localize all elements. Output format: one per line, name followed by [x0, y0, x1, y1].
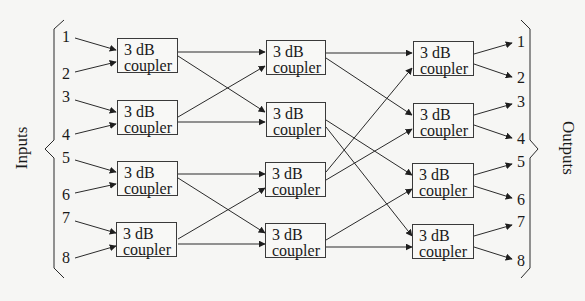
- coupler-label-db: 3 dB: [272, 166, 325, 182]
- coupler-stage3-4: 3 dB coupler: [412, 224, 474, 259]
- output-port-1: 1: [517, 34, 525, 50]
- coupler-stage2-4: 3 dB coupler: [265, 223, 326, 258]
- output-port-6: 6: [517, 192, 525, 208]
- coupler-label-db: 3 dB: [420, 45, 473, 61]
- inputs-label: Inputs: [12, 118, 32, 178]
- input-port-6: 6: [62, 187, 70, 203]
- output-port-7: 7: [517, 214, 525, 230]
- coupler-label-name: coupler: [273, 122, 325, 138]
- input-port-8: 8: [62, 250, 70, 266]
- coupler-network-diagram: Inputs Outputs 1 2 3 4 5 6 7 8 1 2 3 4 5…: [0, 0, 585, 301]
- coupler-label-name: coupler: [420, 123, 473, 139]
- coupler-stage1-3: 3 dB coupler: [117, 161, 178, 196]
- coupler-label-name: coupler: [273, 60, 325, 76]
- coupler-stage2-2: 3 dB coupler: [266, 102, 326, 137]
- coupler-stage1-1: 3 dB coupler: [117, 38, 178, 73]
- output-port-4: 4: [517, 131, 525, 147]
- coupler-label-db: 3 dB: [273, 106, 325, 122]
- coupler-label-name: coupler: [123, 242, 176, 258]
- coupler-label-name: coupler: [124, 120, 177, 136]
- coupler-label-name: coupler: [420, 61, 473, 77]
- input-port-2: 2: [62, 66, 70, 82]
- coupler-stage2-3: 3 dB coupler: [265, 162, 326, 197]
- output-port-8: 8: [517, 253, 525, 269]
- input-port-1: 1: [62, 29, 70, 45]
- coupler-label-db: 3 dB: [124, 165, 177, 181]
- coupler-label-db: 3 dB: [420, 107, 473, 123]
- coupler-label-name: coupler: [272, 182, 325, 198]
- coupler-label-db: 3 dB: [272, 227, 325, 243]
- input-port-7: 7: [62, 210, 70, 226]
- coupler-stage1-4: 3 dB coupler: [116, 222, 177, 257]
- coupler-label-db: 3 dB: [124, 104, 177, 120]
- coupler-label-db: 3 dB: [273, 44, 325, 60]
- coupler-stage3-3: 3 dB coupler: [412, 163, 474, 198]
- coupler-label-db: 3 dB: [124, 42, 177, 58]
- input-port-5: 5: [62, 150, 70, 166]
- output-port-2: 2: [517, 70, 525, 86]
- coupler-label-name: coupler: [272, 243, 325, 259]
- outputs-brace: [521, 20, 538, 278]
- coupler-label-name: coupler: [124, 58, 177, 74]
- coupler-label-db: 3 dB: [123, 226, 176, 242]
- coupler-label-name: coupler: [419, 183, 473, 199]
- outputs-label: Outputs: [558, 112, 578, 184]
- input-port-3: 3: [62, 89, 70, 105]
- output-port-3: 3: [517, 94, 525, 110]
- coupler-label-db: 3 dB: [419, 228, 473, 244]
- coupler-stage1-2: 3 dB coupler: [117, 100, 178, 135]
- input-port-4: 4: [62, 127, 70, 143]
- coupler-stage3-1: 3 dB coupler: [413, 41, 474, 76]
- coupler-label-db: 3 dB: [419, 167, 473, 183]
- coupler-label-name: coupler: [419, 244, 473, 260]
- output-port-5: 5: [517, 154, 525, 170]
- coupler-stage2-1: 3 dB coupler: [266, 40, 326, 75]
- coupler-label-name: coupler: [124, 181, 177, 197]
- coupler-stage3-2: 3 dB coupler: [413, 103, 474, 138]
